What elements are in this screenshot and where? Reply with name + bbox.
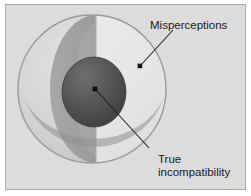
true-incompatibility-anchor-dot xyxy=(93,87,98,92)
inner-sphere xyxy=(62,57,126,127)
figure-panel: Misperceptions True incompatibility xyxy=(5,4,246,190)
figure-root: Misperceptions True incompatibility xyxy=(0,0,251,196)
label-true-incompatibility: True incompatibility xyxy=(158,153,230,179)
label-true-incompatibility-line2: incompatibility xyxy=(158,166,230,179)
label-misperceptions: Misperceptions xyxy=(150,19,227,32)
misperceptions-anchor-dot xyxy=(138,64,143,69)
label-true-incompatibility-line1: True xyxy=(158,153,181,165)
